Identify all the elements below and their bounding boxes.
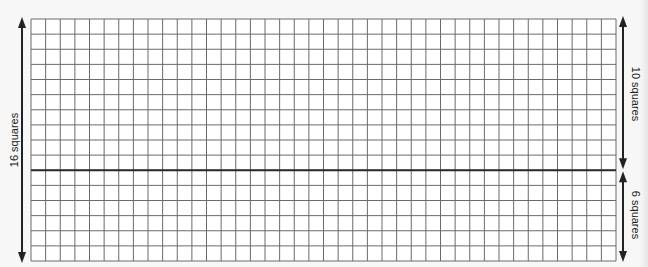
grid-canvas: [0, 0, 648, 267]
arrow-total-height-head-down-icon: [18, 252, 26, 263]
label-bottom-section: 6 squares: [630, 191, 642, 239]
arrow-top-section-head-up-icon: [619, 16, 627, 27]
arrow-top-section-head-down-icon: [619, 158, 627, 169]
arrow-bottom-section-head-down-icon: [619, 251, 627, 262]
label-total-height: 16 squares: [8, 113, 20, 167]
grid-diagram: 16 squares 10 squares 6 squares: [0, 0, 648, 267]
label-top-section: 10 squares: [630, 67, 642, 121]
arrow-bottom-section-head-up-icon: [619, 171, 627, 182]
arrow-total-height-head-up-icon: [18, 17, 26, 28]
